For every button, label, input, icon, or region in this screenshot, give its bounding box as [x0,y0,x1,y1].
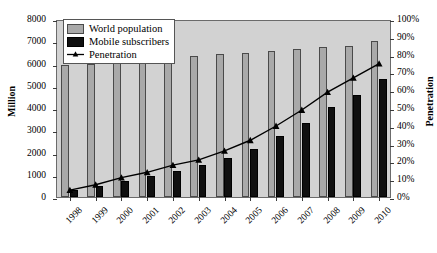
y-axis-right-tick-mark [390,146,394,147]
y-axis-right-tick-mark [390,110,394,111]
y-axis-right-tick-mark [390,74,394,75]
y-axis-left-tick-label: 0 [12,193,46,203]
y-axis-left-tick-mark [53,155,57,156]
penetration-marker [273,123,280,129]
y-axis-right-tick-mark [390,21,394,22]
y-axis-left-tick-mark [53,21,57,22]
y-axis-left-tick-mark [53,66,57,67]
legend-line-marker-icon [67,50,84,59]
y-axis-left-tick-label: 3000 [12,126,46,136]
y-axis-right-tick-mark [390,163,394,164]
y-axis-right-tick-label: 10% [397,175,433,185]
penetration-marker [376,60,383,66]
y-axis-right-tick-label: 0% [397,193,433,203]
y-axis-left-tick-mark [53,88,57,89]
y-axis-left-tick-label: 7000 [12,37,46,47]
y-axis-right-tick-mark [390,128,394,129]
penetration-marker [324,89,331,95]
y-axis-left-tick-label: 2000 [12,149,46,159]
legend-swatch-black-icon [67,37,84,46]
legend-item-world-population: World population [67,22,169,35]
legend-item-mobile-subscribers: Mobile subscribers [67,35,169,48]
y-axis-right-tick-label: 60% [397,86,433,96]
legend-item-penetration: Penetration [67,48,169,61]
y-axis-right-tick-mark [390,57,394,58]
legend-label: Penetration [89,49,137,60]
penetration-marker [350,75,357,81]
y-axis-left-tick-mark [53,43,57,44]
chart-legend: World population Mobile subscribers Pene… [63,19,175,64]
y-axis-left-tick-label: 1000 [12,171,46,181]
y-axis-right-tick-label: 50% [397,104,433,114]
y-axis-right-tick-label: 30% [397,140,433,150]
y-axis-right-tick-label: 40% [397,122,433,132]
y-axis-left-tick-mark [53,110,57,111]
legend-label: World population [89,23,163,34]
penetration-marker [247,137,254,143]
y-axis-right-tick-mark [390,39,394,40]
penetration-line [70,64,379,190]
legend-swatch-gray-icon [67,24,84,33]
x-axis-tick-labels: 1998199920002001200220032004200520062007… [56,199,391,253]
y-axis-right-tick-label: 80% [397,51,433,61]
y-axis-left-tick-label: 6000 [12,60,46,70]
y-axis-left-tick-mark [53,177,57,178]
y-axis-right-tick-label: 20% [397,157,433,167]
y-axis-right-tick-label: 90% [397,33,433,43]
y-axis-left-tick-label: 4000 [12,104,46,114]
y-axis-left-ticks: 010002000300040005000600070008000 [12,0,46,253]
legend-label: Mobile subscribers [89,36,169,47]
y-axis-right-tick-label: 70% [397,68,433,78]
y-axis-left-tick-label: 5000 [12,82,46,92]
y-axis-right-tick-mark [390,181,394,182]
y-axis-left-tick-mark [53,132,57,133]
y-axis-right-ticks: 0%10%20%30%40%50%60%70%80%90%100% [397,0,433,253]
y-axis-right-tick-label: 100% [397,15,433,25]
y-axis-right-tick-mark [390,92,394,93]
combo-chart: Million Penetration 01000200030004000500… [0,0,437,253]
y-axis-left-tick-label: 8000 [12,15,46,25]
